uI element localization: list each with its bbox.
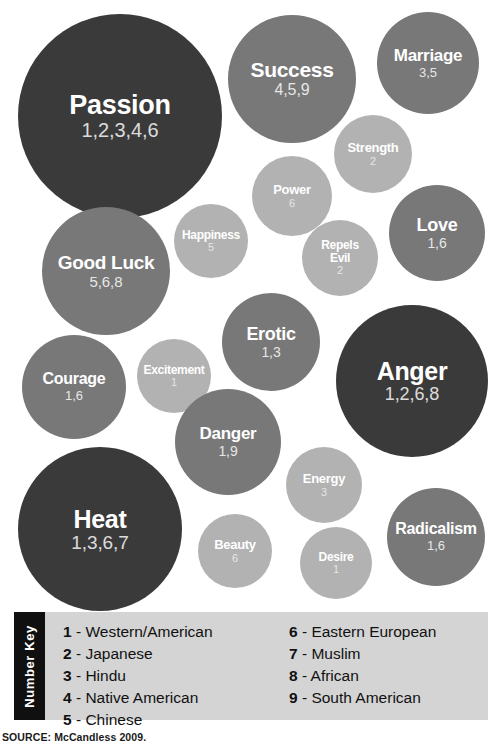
bubble-love[interactable]: Love1,6 <box>389 185 485 281</box>
bubble-label: Passion <box>69 91 170 119</box>
number-key-column-right: 6 - Eastern European7 - Muslim8 - Africa… <box>289 621 499 720</box>
bubble-strength[interactable]: Strength2 <box>334 115 412 193</box>
bubble-culture-numbers: 3,5 <box>419 66 437 80</box>
bubble-good-luck[interactable]: Good Luck5,6,8 <box>42 207 170 335</box>
bubble-heat[interactable]: Heat1,3,6,7 <box>18 447 182 611</box>
bubble-culture-numbers: 2 <box>370 156 376 167</box>
bubble-label: Heat <box>74 506 127 532</box>
bubble-culture-numbers: 1,6 <box>427 539 445 553</box>
bubble-label: Energy <box>303 472 345 486</box>
bubble-culture-numbers: 4,5,9 <box>274 82 309 99</box>
legend-number: 3 <box>63 667 72 684</box>
legend-number: 4 <box>63 689 72 706</box>
bubble-culture-numbers: 1,6 <box>65 389 83 403</box>
bubble-culture-numbers: 1,3,6,7 <box>71 533 128 553</box>
legend-row: 6 - Eastern European <box>289 621 499 643</box>
bubble-culture-numbers: 1,2,6,8 <box>385 385 439 404</box>
legend-dash: - <box>72 645 86 662</box>
legend-dash: - <box>72 711 86 728</box>
legend-row: 8 - African <box>289 665 499 687</box>
bubble-energy[interactable]: Energy3 <box>286 447 362 523</box>
legend-dash: - <box>72 667 86 684</box>
legend-row: 7 - Muslim <box>289 643 499 665</box>
bubble-courage[interactable]: Courage1,6 <box>22 335 126 439</box>
bubble-label: Marriage <box>394 47 462 65</box>
number-key-body: 1 - Western/American2 - Japanese3 - Hind… <box>45 612 499 720</box>
bubble-power[interactable]: Power6 <box>252 156 332 236</box>
bubble-label: Strength <box>347 141 398 155</box>
legend-number: 1 <box>63 623 72 640</box>
legend-dash: - <box>298 623 312 640</box>
legend-number: 9 <box>289 689 298 706</box>
number-key-tab: Number Key <box>14 612 45 720</box>
number-key-legend: Number Key 1 - Western/American2 - Japan… <box>14 612 488 720</box>
number-key-column-left: 1 - Western/American2 - Japanese3 - Hind… <box>63 621 289 720</box>
legend-culture-name: Eastern European <box>311 623 436 640</box>
bubble-success[interactable]: Success4,5,9 <box>228 15 356 143</box>
bubble-culture-numbers: 2 <box>337 265 343 276</box>
bubble-radicalism[interactable]: Radicalism1,6 <box>387 488 485 586</box>
bubble-anger[interactable]: Anger1,2,6,8 <box>336 305 488 457</box>
bubble-culture-numbers: 1,9 <box>218 444 237 459</box>
bubble-label: Radicalism <box>395 521 477 538</box>
legend-culture-name: South American <box>311 689 420 706</box>
bubble-label: Beauty <box>214 538 256 552</box>
bubble-label: Success <box>250 59 333 81</box>
bubble-culture-numbers: 1 <box>171 377 177 388</box>
bubble-label: Repels Evil <box>321 239 359 264</box>
bubble-culture-numbers: 1 <box>333 564 339 575</box>
legend-number: 2 <box>63 645 72 662</box>
legend-culture-name: Hindu <box>85 667 126 684</box>
bubble-culture-numbers: 3 <box>321 487 327 498</box>
bubble-culture-numbers: 6 <box>289 198 295 209</box>
legend-number: 6 <box>289 623 298 640</box>
bubble-repels-evil[interactable]: Repels Evil2 <box>302 220 378 296</box>
legend-culture-name: Western/American <box>85 623 212 640</box>
bubble-passion[interactable]: Passion1,2,3,4,6 <box>18 14 222 218</box>
legend-row: 1 - Western/American <box>63 621 289 643</box>
legend-culture-name: Japanese <box>85 645 152 662</box>
bubble-label: Courage <box>43 371 106 388</box>
legend-number: 7 <box>289 645 298 662</box>
legend-culture-name: Native American <box>85 689 198 706</box>
bubble-culture-numbers: 1,6 <box>427 236 446 251</box>
bubble-label: Good Luck <box>58 253 155 273</box>
bubble-beauty[interactable]: Beauty6 <box>198 514 272 588</box>
legend-dash: - <box>72 623 86 640</box>
bubble-desire[interactable]: Desire1 <box>300 527 372 599</box>
source-note: SOURCE: McCandless 2009. <box>2 731 146 743</box>
bubble-danger[interactable]: Danger1,9 <box>175 389 281 495</box>
bubble-marriage[interactable]: Marriage3,5 <box>377 12 479 114</box>
legend-row: 3 - Hindu <box>63 665 289 687</box>
legend-culture-name: African <box>311 667 359 684</box>
legend-culture-name: Chinese <box>85 711 142 728</box>
legend-row: 4 - Native American <box>63 687 289 709</box>
bubble-culture-numbers: 5 <box>208 242 214 253</box>
legend-dash: - <box>298 667 311 684</box>
number-key-tab-label: Number Key <box>22 625 37 708</box>
bubble-chart: Passion1,2,3,4,6Success4,5,9Marriage3,5S… <box>0 0 502 604</box>
bubble-label: Power <box>273 183 311 197</box>
bubble-happiness[interactable]: Happiness5 <box>174 204 248 278</box>
legend-row: 2 - Japanese <box>63 643 289 665</box>
bubble-culture-numbers: 6 <box>232 553 238 564</box>
infographic-page: Passion1,2,3,4,6Success4,5,9Marriage3,5S… <box>0 0 502 749</box>
bubble-label: Erotic <box>246 325 295 344</box>
bubble-label: Happiness <box>182 229 240 241</box>
bubble-culture-numbers: 5,6,8 <box>90 274 123 290</box>
bubble-label: Excitement <box>143 364 204 376</box>
legend-dash: - <box>72 689 86 706</box>
legend-number: 8 <box>289 667 298 684</box>
bubble-label: Love <box>417 216 458 235</box>
legend-culture-name: Muslim <box>311 645 360 662</box>
legend-number: 5 <box>63 711 72 728</box>
legend-row: 9 - South American <box>289 687 499 709</box>
bubble-label: Anger <box>377 358 448 384</box>
bubble-culture-numbers: 1,3 <box>261 345 280 360</box>
bubble-label: Desire <box>319 551 354 563</box>
legend-dash: - <box>298 689 312 706</box>
legend-row: 5 - Chinese <box>63 709 289 731</box>
bubble-erotic[interactable]: Erotic1,3 <box>222 293 320 391</box>
legend-dash: - <box>298 645 312 662</box>
bubble-label: Danger <box>200 425 257 443</box>
